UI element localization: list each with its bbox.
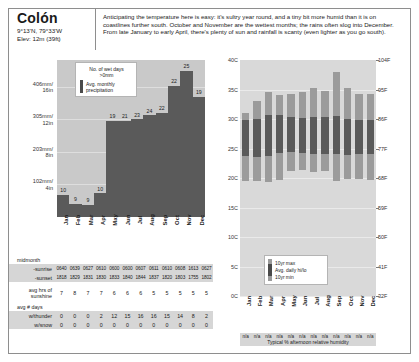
temp-average-range-bar	[299, 118, 306, 153]
month-label: Jan	[63, 215, 69, 225]
precip-bar	[143, 115, 155, 217]
temp-legend-max: 10yr max	[275, 260, 306, 267]
table-row-thunder: w/thunder 000212151616151482	[9, 311, 213, 320]
description-block: Anticipating the temperature here is eas…	[95, 9, 410, 50]
climate-table: midmonth -sunrise 0640063906270610060006…	[9, 255, 213, 329]
month-tick: Jan	[240, 300, 251, 332]
y-tick-label-celsius: 25C	[218, 146, 238, 152]
place-block: Colón 9°13'N, 79°33'W Elev: 12m (39ft)	[9, 9, 95, 50]
table-cell: 0611	[147, 266, 160, 272]
table-cell: n/a	[365, 334, 376, 339]
precip-bar	[193, 97, 205, 217]
y-tick-label-fahrenheit: 32F	[378, 293, 400, 299]
wet-days-label: 19	[106, 114, 118, 120]
table-row-snow: w/snow 000000000000	[9, 320, 213, 329]
sunshine-label-2: sunshine	[9, 293, 52, 299]
month-tick: Mar	[82, 219, 94, 253]
table-cell: 0	[55, 322, 68, 328]
month-tick: Sep	[331, 300, 342, 332]
precip-bar-group: 10	[57, 60, 69, 217]
table-cell: 1833	[108, 275, 121, 281]
month-tick: Feb	[69, 219, 81, 253]
temperature-chart: 40C104F35C95F30C86F25C77F20C68F15C59F10C…	[218, 52, 411, 352]
y-tick-label: 102mm/4in	[9, 178, 53, 191]
y-tick-label: 406mm/16in	[9, 81, 53, 94]
precip-legend-avg-2: precipitation	[86, 87, 115, 93]
y-tick-label-fahrenheit: 104F	[378, 57, 400, 63]
header: Colón 9°13'N, 79°33'W Elev: 12m (39ft) A…	[9, 9, 410, 50]
table-cell: 0	[108, 322, 121, 328]
weather-page: Colón 9°13'N, 79°33'W Elev: 12m (39ft) A…	[0, 0, 419, 362]
y-tick-label-fahrenheit: 41F	[378, 264, 400, 270]
precip-bar	[57, 195, 69, 217]
month-tick: Aug	[319, 300, 330, 332]
sunshine-label: avg hrs of sunshine	[9, 287, 55, 299]
table-cell: 5	[147, 290, 160, 296]
month-label: Dec	[199, 215, 205, 226]
temp-average-range-bar	[310, 117, 317, 154]
temp-legend-swatch-icon	[268, 259, 272, 281]
temp-average-range-bar	[321, 117, 328, 154]
precip-bar-group: 25	[180, 60, 192, 217]
y-tick-label: 305mm/12in	[9, 113, 53, 126]
wet-days-label: 10	[94, 187, 106, 193]
sunset-label: -sunset	[9, 275, 55, 281]
precip-legend-wetdays-sub: >0mm	[99, 72, 113, 78]
thunder-values: 000212151616151482	[55, 313, 213, 319]
y-tick-label-celsius: 30C	[218, 116, 238, 122]
table-cell: 15	[160, 313, 173, 319]
table-cell: 0600	[121, 266, 134, 272]
y-tick-label: 203mm/8in	[9, 146, 53, 159]
temp-average-range-bar	[242, 120, 249, 156]
table-cell: 5	[200, 290, 213, 296]
month-tick: Sep	[156, 219, 168, 253]
precip-legend: No. of wet days >0mm Avg. monthly precip…	[75, 62, 137, 97]
temp-average-range-bar	[355, 120, 362, 154]
table-cell: 2	[95, 313, 108, 319]
temp-average-range-bar	[276, 115, 283, 152]
table-cell: 1803	[174, 275, 187, 281]
precip-bar	[106, 121, 118, 217]
temp-average-range-bar	[333, 116, 340, 154]
month-tick: Feb	[251, 300, 262, 332]
description-text: Anticipating the temperature here is eas…	[103, 13, 404, 36]
y-tick-label-celsius: 40C	[218, 57, 238, 63]
table-row-midmonth-header: midmonth	[9, 255, 213, 264]
temp-bar-group	[342, 60, 353, 296]
month-tick: Nov	[353, 300, 364, 332]
y-tick-label-fahrenheit: 68F	[378, 175, 400, 181]
month-label: Feb	[75, 215, 81, 225]
table-cell: 0627	[81, 266, 94, 272]
table-cell: 1613	[187, 266, 200, 272]
thunder-label: w/thunder	[9, 313, 55, 319]
precip-bar	[168, 86, 180, 217]
month-tick: Dec	[365, 300, 376, 332]
month-label: Mar	[88, 215, 94, 225]
humidity-block: n/an/an/an/an/an/an/an/an/an/an/an/a Typ…	[240, 333, 376, 346]
axis-tick	[376, 237, 379, 238]
month-tick: Dec	[193, 219, 205, 253]
temp-legend-avg: Avg. daily hi/lo	[275, 267, 306, 274]
precip-bar	[119, 121, 131, 217]
temp-x-axis: JanFebMarAprMayJunJulAugSepOctNovDec	[240, 300, 376, 332]
table-cell: 0	[187, 322, 200, 328]
month-tick: Jan	[57, 219, 69, 253]
snow-label: w/snow	[9, 322, 55, 328]
month-tick: Apr	[274, 300, 285, 332]
y-tick-label-celsius: 35C	[218, 87, 238, 93]
sunshine-values: 787766655555	[55, 290, 213, 296]
month-tick: May	[285, 300, 296, 332]
axis-tick	[376, 267, 379, 268]
midmonth-label: midmonth	[9, 257, 55, 263]
temp-legend-min: 10yr min	[275, 274, 306, 281]
table-cell: 0	[174, 322, 187, 328]
table-cell: 7	[81, 290, 94, 296]
y-tick-label-celsius: 0C	[218, 293, 238, 299]
precip-x-axis: JanFebMarAprMayJunJulAugSepOctNovDec	[57, 219, 205, 253]
table-cell: 1844	[134, 275, 147, 281]
table-cell: 15	[121, 313, 134, 319]
precip-bar-group: 22	[156, 60, 168, 217]
table-cell: 0	[95, 322, 108, 328]
table-cell: 1831	[81, 275, 94, 281]
table-row-sunset: -sunset 18181829183118301833184018441837…	[9, 273, 213, 282]
